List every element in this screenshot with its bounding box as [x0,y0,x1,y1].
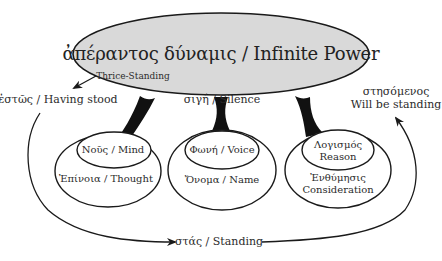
reason-label: Λογισμός Reason [314,139,362,162]
silence-label: σιγή / Silence [184,94,261,105]
consideration-label: Ἐνθύμησις Consideration [302,172,373,195]
name-label: Ὄνομα / Name [185,175,260,185]
having-stood-label: ἑστῶς / Having stood [0,94,118,105]
will-be-standing-label: στησόμενος Will be standing [351,86,442,111]
standing-label: στάς / Standing [175,236,263,247]
root-label: ἀπέραντος δύναμις / Infinite Power [63,45,380,63]
voice-label: Φωνή / Voice [189,145,254,155]
trunk-right [295,96,322,137]
consideration-greek: Ἐνθύμησις [302,172,373,184]
mind-label: Νοῦς / Mind [82,145,144,155]
consideration-english: Consideration [302,183,373,195]
thought-label: Ἐπίνοια / Thought [59,174,153,184]
reason-english: Reason [314,150,362,162]
reason-greek: Λογισμός [314,139,362,151]
thrice-standing-label: Thrice-Standing [96,72,170,81]
diagram-canvas: ἀπέραντος δύναμις / Infinite Power Thric… [0,0,442,261]
future-greek: στησόμενος [351,86,442,99]
diagram-shapes [0,0,442,261]
future-english: Will be standing [351,99,442,112]
thrice-standing-arrow [74,76,96,88]
